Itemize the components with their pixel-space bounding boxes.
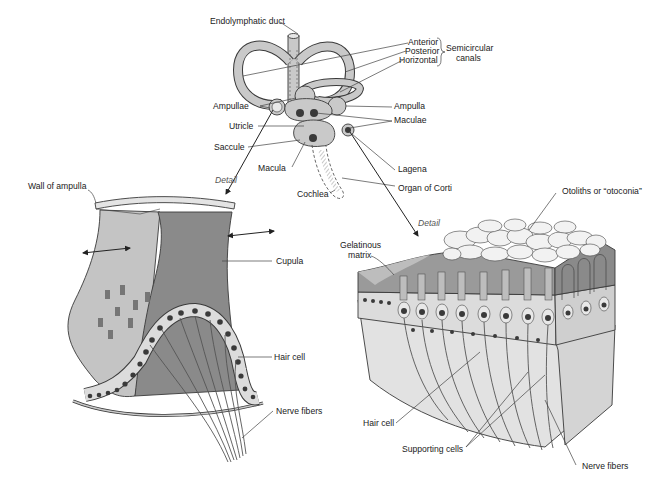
label-canals: canals <box>456 53 481 63</box>
label-ampullae: Ampullae <box>213 101 249 111</box>
label-otoliths: Otoliths or “otoconia” <box>562 186 642 196</box>
label-wall-of-ampulla: Wall of ampulla <box>28 181 87 191</box>
label-lagena: Lagena <box>398 164 427 174</box>
motion-arrow-right <box>228 231 274 236</box>
label-cochlea: Cochlea <box>297 189 329 199</box>
label-supporting-cells: Supporting cells <box>402 444 463 454</box>
label-ampulla: Ampulla <box>394 101 425 111</box>
label-utricle: Utricle <box>229 121 254 131</box>
label-endolymphatic-duct: Endolymphatic duct <box>210 16 286 26</box>
label-detail-left: Detail <box>215 175 238 185</box>
crista-ampullaris <box>68 197 263 462</box>
label-nerve-fibers-right: Nerve fibers <box>582 461 628 471</box>
macula-block <box>358 219 615 450</box>
label-cupula: Cupula <box>276 256 303 266</box>
label-macula: Macula <box>258 163 286 173</box>
label-hair-cell-left: Hair cell <box>274 352 305 362</box>
label-maculae: Maculae <box>394 115 427 125</box>
vestibular-diagram: Endolymphatic duct Anterior Posterior Ho… <box>0 0 666 492</box>
label-semicircular: Semicircular <box>446 43 493 53</box>
label-saccule: Saccule <box>214 142 245 152</box>
label-horizontal: Horizontal <box>399 55 438 65</box>
label-matrix: matrix <box>348 250 372 260</box>
label-nerve-fibers-left: Nerve fibers <box>276 406 322 416</box>
label-organ-of-corti: Organ of Corti <box>398 183 452 193</box>
label-hair-cell-right: Hair cell <box>363 418 394 428</box>
label-gelatinous: Gelatinous <box>340 240 381 250</box>
label-detail-right: Detail <box>418 218 441 228</box>
